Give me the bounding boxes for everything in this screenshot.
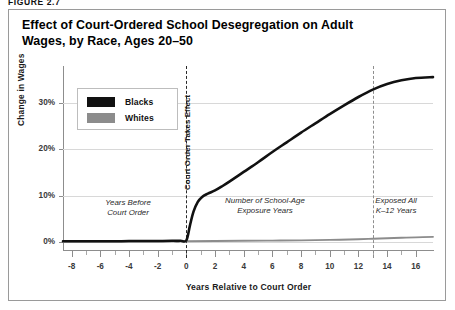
x-axis-tick-label: -2 <box>148 262 168 271</box>
legend-swatch-whites <box>87 113 115 123</box>
x-axis-tick-label: 12 <box>348 262 368 271</box>
chart-title: Effect of Court-Ordered School Desegrega… <box>22 18 372 50</box>
x-axis-tick-label: 0 <box>176 262 196 271</box>
x-axis-tick <box>301 251 302 257</box>
x-axis-tick-label: 8 <box>291 262 311 271</box>
x-axis-tick <box>215 251 216 257</box>
y-axis-tick-label: 30% <box>25 98 55 107</box>
x-axis-tick <box>416 251 417 257</box>
x-axis-tick <box>330 251 331 257</box>
legend-item-whites: Whites <box>87 112 154 124</box>
x-axis-tick <box>100 251 101 257</box>
x-axis-tick <box>129 251 130 257</box>
x-axis-tick <box>244 251 245 257</box>
x-axis-tick-minor <box>258 251 259 255</box>
x-axis-tick-label: -8 <box>62 262 82 271</box>
chart-legend: Blacks Whites <box>77 88 178 130</box>
figure-number-label: FIGURE 2.7 <box>8 0 60 7</box>
x-axis-tick-minor <box>344 251 345 255</box>
x-axis-tick-label: 2 <box>205 262 225 271</box>
x-axis-tick <box>158 251 159 257</box>
x-axis-tick-label: 6 <box>262 262 282 271</box>
x-axis-title: Years Relative to Court Order <box>63 282 434 292</box>
y-axis-title: Change in Wages <box>16 54 26 127</box>
legend-item-blacks: Blacks <box>87 96 153 108</box>
x-axis-tick-label: -6 <box>90 262 110 271</box>
x-axis-tick <box>72 251 73 257</box>
y-axis-tick-label: 20% <box>25 144 55 153</box>
x-axis-tick-label: -4 <box>119 262 139 271</box>
figure-container: FIGURE 2.7 Effect of Court-Ordered Schoo… <box>0 0 455 310</box>
x-axis-tick-minor <box>143 251 144 255</box>
x-axis-tick-minor <box>115 251 116 255</box>
x-axis-tick <box>387 251 388 257</box>
x-axis-tick-label: 16 <box>406 262 426 271</box>
x-axis-tick-minor <box>287 251 288 255</box>
x-axis-tick-minor <box>86 251 87 255</box>
x-axis-tick <box>272 251 273 257</box>
x-axis-tick <box>358 251 359 257</box>
legend-swatch-blacks <box>87 97 115 107</box>
x-axis-tick-label: 10 <box>320 262 340 271</box>
y-axis-tick-label: 10% <box>25 191 55 200</box>
x-axis-tick-minor <box>201 251 202 255</box>
x-axis-tick-label: 4 <box>234 262 254 271</box>
x-axis-tick-minor <box>229 251 230 255</box>
x-axis-tick-minor <box>315 251 316 255</box>
x-axis-tick-minor <box>401 251 402 255</box>
x-axis-tick-label: 14 <box>377 262 397 271</box>
x-axis-tick-minor <box>172 251 173 255</box>
legend-label-blacks: Blacks <box>125 97 153 107</box>
y-axis-tick-label: 0% <box>25 237 55 246</box>
legend-label-whites: Whites <box>125 113 154 123</box>
